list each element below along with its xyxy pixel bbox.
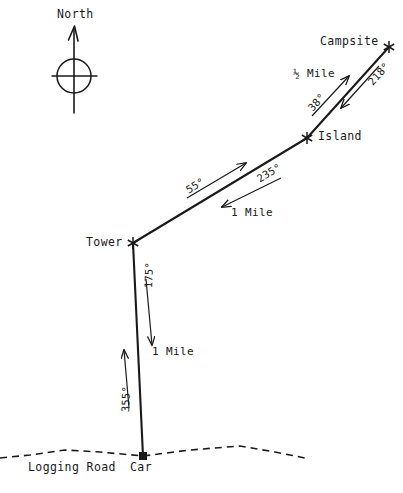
- bearing-arrow-175: [146, 279, 152, 345]
- map-canvas: [0, 0, 403, 493]
- logging-road-label: Logging Road: [28, 462, 116, 474]
- place-label-car: Car: [130, 462, 152, 474]
- orienteering-map: North Campsite Island Tower Car Logging …: [0, 0, 403, 493]
- distance-label-car-tower: 1 Mile: [152, 346, 194, 357]
- bearing-arrow-235: [222, 178, 281, 207]
- place-label-island: Island: [318, 131, 362, 143]
- distance-label-tower-island: 1 Mile: [231, 207, 273, 218]
- star-marker-tower: [128, 237, 138, 249]
- distance-label-island-campsite: ½ Mile: [293, 68, 335, 79]
- place-label-campsite: Campsite: [320, 36, 379, 48]
- place-label-tower: Tower: [86, 237, 123, 249]
- square-marker-car: [139, 452, 147, 460]
- bearing-label-175: 175°: [143, 262, 154, 288]
- compass-rose-icon: [52, 26, 97, 113]
- bearing-label-355: 355°: [120, 386, 131, 412]
- logging-road-line: [0, 446, 305, 458]
- compass-north-label: North: [57, 9, 94, 21]
- leg-tower-to-island: [133, 138, 307, 243]
